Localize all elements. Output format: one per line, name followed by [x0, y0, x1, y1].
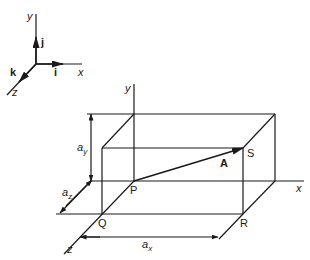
ref-y-label: y [26, 10, 34, 22]
unit-j-label: j [40, 36, 44, 48]
box [56, 84, 304, 254]
vector-diagram: y j k i x z y x z [0, 0, 310, 260]
point-Q-label: Q [98, 217, 107, 229]
az-dimension-label: az [62, 186, 72, 201]
ref-z-label: z [11, 86, 18, 98]
vector-A-label: A [220, 157, 228, 169]
ax-dimension-label: ax [142, 238, 153, 253]
ref-x-label: x [77, 66, 84, 78]
ay-dimension-label: ay [77, 141, 88, 156]
main-y-label: y [124, 82, 132, 94]
point-R-label: R [240, 217, 248, 229]
unit-k-label: k [10, 66, 17, 78]
unit-vector-k-arrow [19, 64, 36, 82]
main-x-label: x [295, 182, 302, 194]
box-edge [243, 114, 275, 148]
point-S-label: S [247, 147, 254, 159]
box-edge [102, 114, 134, 148]
point-P-label: P [130, 184, 137, 196]
reference-axes [7, 14, 82, 95]
unit-i-label: i [54, 66, 57, 78]
main-z-label: z [66, 243, 73, 255]
box-edge [243, 181, 275, 214]
